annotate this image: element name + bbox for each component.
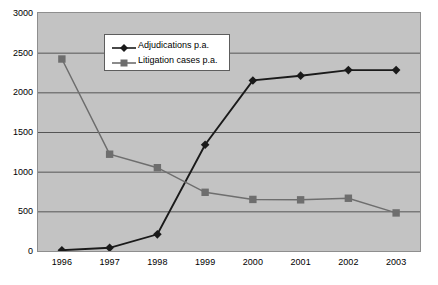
y-axis-tick-label: 1000: [1, 167, 33, 177]
data-point-marker: [345, 195, 352, 202]
x-axis-tick-label: 2002: [326, 256, 370, 268]
legend-entry-litigation: Litigation cases p.a.: [105, 53, 229, 68]
line-chart: 050010001500200025003000 199619971998199…: [0, 0, 438, 285]
data-point-marker: [105, 244, 114, 251]
x-axis-tick-label: 1997: [88, 256, 132, 268]
data-point-marker: [344, 66, 353, 75]
x-axis-tick-labels: 19961997199819992000200120022003: [37, 256, 421, 272]
series-line: [62, 70, 396, 250]
x-axis-tick-label: 2001: [279, 256, 323, 268]
y-axis-tick-label: 1500: [1, 127, 33, 137]
data-point-marker: [153, 230, 162, 239]
y-axis-tick-label: 500: [1, 206, 33, 216]
legend-entry-adjudications: Adjudications p.a.: [105, 38, 229, 53]
data-point-marker: [58, 55, 65, 62]
data-point-marker: [201, 189, 208, 196]
legend-label-adjudications: Adjudications p.a.: [138, 40, 209, 51]
y-axis-tick-label: 2500: [1, 48, 33, 58]
data-point-marker: [392, 209, 399, 216]
data-point-marker: [249, 196, 256, 203]
legend-label-litigation: Litigation cases p.a.: [138, 55, 218, 66]
data-point-marker: [392, 66, 401, 75]
data-point-marker: [296, 71, 305, 80]
x-axis-tick-label: 1998: [135, 256, 179, 268]
y-axis-tick-label: 0: [1, 246, 33, 256]
y-axis-tick-labels: 050010001500200025003000: [0, 12, 33, 252]
x-axis-tick-label: 1996: [40, 256, 84, 268]
legend-marker-square-icon: [110, 55, 138, 67]
data-point-marker: [297, 196, 304, 203]
x-axis-tick-label: 2000: [231, 256, 275, 268]
data-point-marker: [106, 151, 113, 158]
x-axis-tick-label: 1999: [183, 256, 227, 268]
data-point-marker: [58, 246, 67, 251]
y-axis-tick-label: 2000: [1, 87, 33, 97]
x-axis-tick-label: 2003: [374, 256, 418, 268]
chart-legend: Adjudications p.a. Litigation cases p.a.: [104, 34, 230, 71]
y-axis-tick-label: 3000: [1, 8, 33, 18]
data-point-marker: [154, 164, 161, 171]
legend-marker-diamond-icon: [110, 40, 138, 52]
series-line: [62, 59, 396, 213]
